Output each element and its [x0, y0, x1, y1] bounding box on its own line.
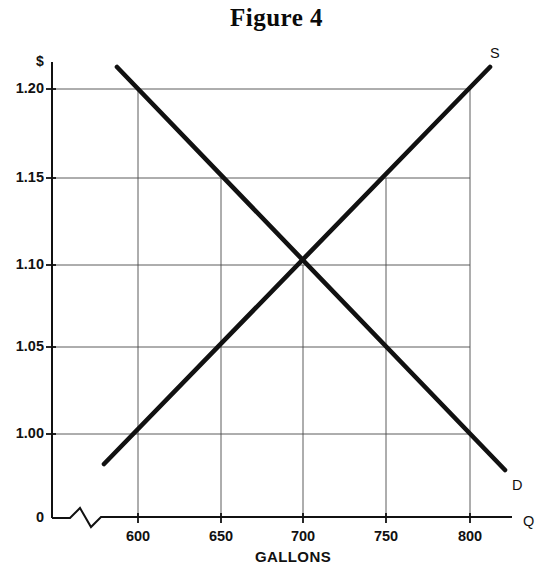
x-axis-line-with-break	[52, 508, 512, 527]
supply-demand-plot	[0, 0, 553, 588]
demand-curve-label: D	[512, 477, 522, 493]
y-tick-label-1-20: 1.20	[0, 80, 44, 96]
demand-curve	[117, 67, 505, 470]
horizontal-gridlines	[52, 89, 470, 434]
y-tick-label-0: 0	[0, 509, 44, 525]
y-axis-unit-label: $	[36, 53, 44, 69]
supply-curve-label: S	[490, 45, 500, 61]
x-tick-label-750: 750	[356, 528, 416, 544]
x-axis-title: GALLONS	[223, 548, 363, 565]
y-tick-label-1-15: 1.15	[0, 169, 44, 185]
x-tick-label-600: 600	[108, 528, 168, 544]
y-tick-label-1-05: 1.05	[0, 338, 44, 354]
vertical-gridlines	[138, 89, 470, 518]
figure-canvas: Figure 4	[0, 0, 553, 588]
x-tick-label-800: 800	[440, 528, 500, 544]
y-tick-label-1-10: 1.10	[0, 256, 44, 272]
y-tick-label-1-00: 1.00	[0, 425, 44, 441]
x-tick-label-700: 700	[273, 528, 333, 544]
supply-curve	[104, 67, 490, 464]
x-axis-end-label: Q	[523, 513, 534, 529]
x-tick-label-650: 650	[191, 528, 251, 544]
